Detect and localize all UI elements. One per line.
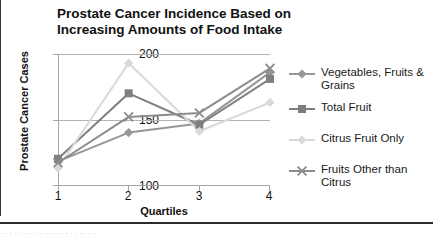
chart-title-line1: Prostate Cancer Incidence Based on — [57, 6, 357, 22]
x-tick-label-3: 3 — [189, 189, 209, 203]
legend-marker-diamond-icon — [289, 67, 315, 81]
legend-label: Total Fruit — [321, 101, 372, 114]
series-lines — [58, 54, 270, 186]
legend-label-line2: Grains — [321, 79, 355, 91]
x-tick-label-4: 4 — [259, 189, 279, 203]
page-border-left — [0, 0, 1, 216]
x-tick-label-2: 2 — [118, 189, 138, 203]
legend-marker-square-icon — [289, 102, 315, 116]
legend-label-line1: Vegetables, Fruits & — [321, 66, 424, 78]
legend-label: Fruits Other than Citrus — [321, 163, 407, 189]
legend-item-vegetables-fruits-grains[interactable]: Vegetables, Fruits & Grains — [289, 66, 433, 92]
y-axis-title: Prostate Cancer Cases — [18, 51, 30, 171]
x-axis-title: Quartiles — [58, 205, 270, 217]
legend-item-citrus-fruit-only[interactable]: Citrus Fruit Only — [289, 132, 433, 147]
horizontal-rule — [0, 222, 433, 224]
chart-legend: Vegetables, Fruits & Grains Total Fruit … — [289, 66, 433, 198]
legend-label: Vegetables, Fruits & Grains — [321, 66, 424, 92]
legend-label-line1: Fruits Other than — [321, 163, 407, 175]
legend-marker-diamond-light-icon — [289, 133, 315, 147]
x-tick-label-1: 1 — [48, 189, 68, 203]
plot-area — [58, 54, 270, 186]
legend-label: Citrus Fruit Only — [321, 132, 404, 145]
chart-figure: . . . . . . . . .. .. .. . . . . .. . ..… — [0, 0, 433, 236]
legend-marker-x-icon — [289, 164, 315, 178]
legend-label-line2: Citrus — [321, 176, 351, 188]
chart-title-line2: Increasing Amounts of Food Intake — [57, 22, 357, 38]
legend-item-fruits-other-than-citrus[interactable]: Fruits Other than Citrus — [289, 163, 433, 189]
legend-item-total-fruit[interactable]: Total Fruit — [289, 101, 433, 116]
chart-title: Prostate Cancer Incidence Based on Incre… — [57, 6, 357, 38]
cut-off-body-text: . . . . . . . . .. .. .. . . . . .. . .. — [0, 227, 433, 236]
